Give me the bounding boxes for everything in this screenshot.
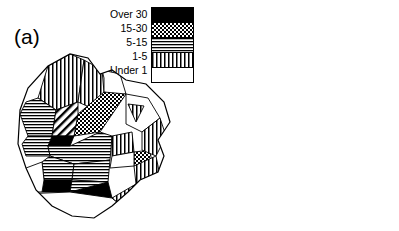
legend-a-label-over30: Over 30 [110,7,147,21]
map-a-region-a1 [38,54,84,110]
figure-two-choropleth-maps: (a) Over 30 15-30 5-15 1-5 Under 1 [0,0,399,231]
map-a-svg [8,40,188,230]
map-a-region-a4 [22,136,52,156]
panel-a: (a) Over 30 15-30 5-15 1-5 Under 1 [0,0,199,231]
legend-a-swatch-solid-black [152,8,193,23]
map-a-regions [18,54,166,226]
legend-a-label-15-30: 15-30 [121,21,148,35]
map-a-region-a18 [72,160,110,182]
map-a-region-a24 [112,184,148,212]
map-a-region-a17 [42,180,72,192]
legend-a-swatch-checker [152,23,193,38]
panel-b: (b) Over 150 100-150 50-100 20-50 Under … [200,0,399,231]
map-a-region-a8 [48,136,74,146]
map-a [8,40,188,230]
map-a-region-a21 [18,162,44,192]
